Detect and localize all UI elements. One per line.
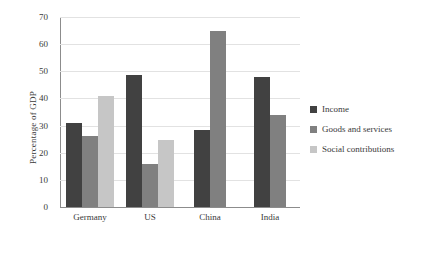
x-axis-tick-label: China [180,212,240,228]
legend-label: Goods and services [322,124,392,134]
bar [158,140,174,207]
x-axis-tick-label: India [240,212,300,228]
bar [66,123,82,207]
bar [82,136,98,207]
bar [98,96,114,207]
bar [254,77,270,207]
gridline [60,207,300,208]
y-axis-tick-labels: 010203040506070 [0,17,54,207]
bar-group [60,17,120,207]
x-axis-tick-labels: GermanyUSChinaIndia [60,212,300,228]
legend-label: Social contributions [322,144,394,154]
bar-group [240,17,300,207]
legend-item: Goods and services [310,124,394,134]
x-axis-tick-label: Germany [60,212,120,228]
legend-swatch-icon [310,126,317,133]
plot-area [60,17,300,207]
bar-chart: Percentage of GDP 010203040506070 German… [0,0,427,255]
bars-layer [60,17,300,207]
bar [210,31,226,207]
legend-item: Social contributions [310,144,394,154]
legend-swatch-icon [310,146,317,153]
bar [194,130,210,207]
y-axis-tick-label: 40 [39,93,48,103]
bar-group [120,17,180,207]
bar [142,164,158,207]
legend-item: Income [310,104,394,114]
bar-group [180,17,240,207]
legend: IncomeGoods and servicesSocial contribut… [310,104,394,154]
bar [270,115,286,207]
y-axis-tick-label: 50 [39,66,48,76]
legend-swatch-icon [310,106,317,113]
legend-label: Income [322,104,349,114]
x-axis-tick-label: US [120,212,180,228]
bar [126,75,142,207]
y-axis-tick-label: 20 [39,148,48,158]
y-axis-tick-label: 10 [39,175,48,185]
y-axis-tick-label: 30 [39,121,48,131]
y-axis-tick-label: 70 [39,12,48,22]
y-axis-tick-label: 0 [44,202,49,212]
y-axis-tick-label: 60 [39,39,48,49]
